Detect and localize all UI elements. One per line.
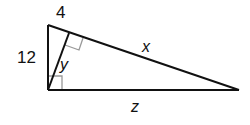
label-top-segment: 4	[56, 3, 65, 22]
label-hypotenuse-segment: x	[141, 38, 151, 55]
hypotenuse	[48, 25, 239, 90]
right-angle-marker-altitude	[65, 38, 83, 50]
triangle-diagram: 4 12 y x z	[0, 0, 250, 125]
label-altitude: y	[59, 56, 69, 73]
label-bottom-leg: z	[130, 98, 139, 115]
label-left-leg: 12	[17, 48, 36, 67]
